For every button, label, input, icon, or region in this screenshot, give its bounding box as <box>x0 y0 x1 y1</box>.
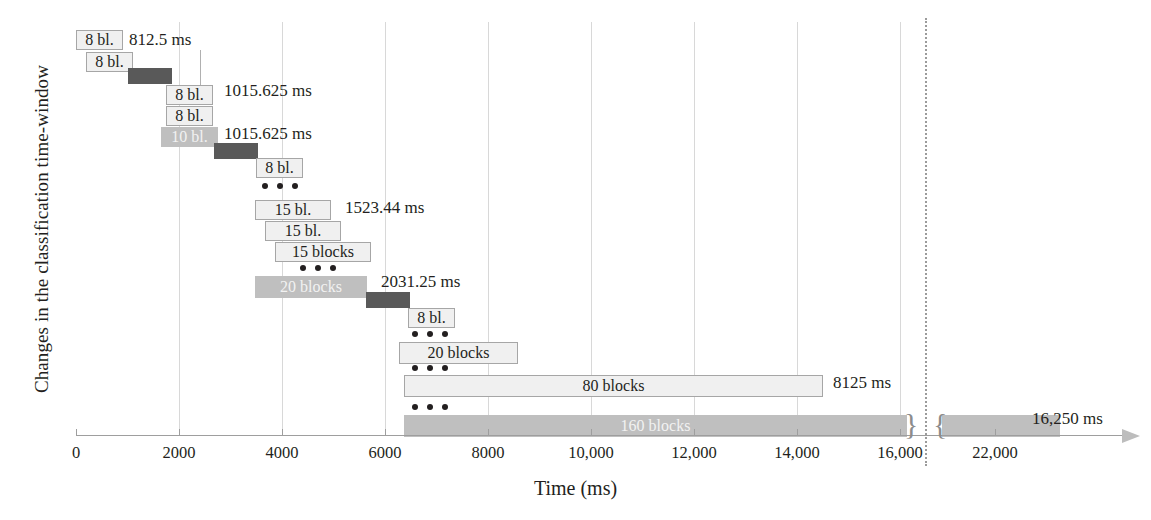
bar-8bl-r16: 8 bl. <box>408 308 455 328</box>
callout-1523-44ms: 1523.44 ms <box>345 198 424 218</box>
gridline-8000 <box>488 22 489 435</box>
axis-break-dotted-line <box>925 18 927 466</box>
bar-15bl-r10: 15 bl. <box>255 200 331 220</box>
bar-160blocks-r22: 160 blocks <box>404 415 907 437</box>
bar-label: 15 bl. <box>275 202 311 218</box>
bar-8bl-r1: 8 bl. <box>76 30 123 50</box>
bar-8bl-r8: 8 bl. <box>256 158 303 178</box>
gridline-2000 <box>179 22 180 435</box>
axis-break-brace-left: } <box>904 409 918 439</box>
tick-2000-label: 2000 <box>163 443 196 463</box>
tick-12000-label: 12,000 <box>671 443 716 463</box>
bar-label: 20 blocks <box>428 345 490 361</box>
bar-8bl-r4: 8 bl. <box>166 85 213 105</box>
bar-label: 15 blocks <box>292 244 354 260</box>
bar-15blocks-r12: 15 blocks <box>275 242 371 262</box>
plot-area: 8 bl.8 bl.8 bl.8 bl.10 bl.8 bl.15 bl.15 … <box>0 0 1151 520</box>
bar-20blocks-r14: 20 blocks <box>255 276 367 298</box>
tick-0 <box>76 429 77 436</box>
gridline-14000 <box>797 22 798 435</box>
gridline-10000 <box>591 22 592 435</box>
bar-label: 10 bl. <box>171 129 207 145</box>
callout-2031-25ms: 2031.25 ms <box>381 272 460 292</box>
tick-14000-label: 14,000 <box>774 443 819 463</box>
bar-20blocks-r18: 20 blocks <box>399 342 518 364</box>
bar-label: 20 blocks <box>280 279 342 295</box>
bar-label: 160 blocks <box>621 418 691 434</box>
ellipsis-5 <box>412 404 448 410</box>
bar-label: 8 bl. <box>175 87 203 103</box>
tick-0-label: 0 <box>72 443 80 463</box>
bar-15bl-r11: 15 bl. <box>265 221 341 241</box>
x-axis-line <box>76 435 1125 436</box>
tick-16000-label: 16,000 <box>877 443 922 463</box>
gridline-12000 <box>694 22 695 435</box>
gridline-16000 <box>900 22 901 435</box>
gridline-6000 <box>385 22 386 435</box>
bar-8bl-r2: 8 bl. <box>86 52 133 72</box>
tick-10000 <box>591 429 592 436</box>
tick-8000 <box>488 429 489 436</box>
callout-8125ms: 8125 ms <box>833 373 891 393</box>
axis-break-brace-right: { <box>933 409 947 439</box>
bar-label: 8 bl. <box>265 160 293 176</box>
ellipsis-2 <box>300 265 336 271</box>
callout-1015-625ms-b: 1015.625 ms <box>224 124 312 144</box>
callout-16250ms: 16,250 ms <box>1032 409 1103 429</box>
tick-10000-label: 10,000 <box>568 443 613 463</box>
x-axis-arrow-icon <box>1122 429 1140 443</box>
bar-dark-r7 <box>214 143 258 159</box>
tick-14000 <box>797 429 798 436</box>
ellipsis-4 <box>412 365 448 371</box>
tick-4000 <box>282 429 283 436</box>
callout-812-5ms-leader-line <box>200 50 201 85</box>
bar-80blocks-r20: 80 blocks <box>404 375 823 397</box>
bar-8bl-r5: 8 bl. <box>166 106 213 126</box>
tick-2000 <box>179 429 180 436</box>
figure-gantt-timewindows: Changes in the classification time-windo… <box>0 0 1151 520</box>
bar-dark-r15 <box>366 292 410 308</box>
callout-1015-625ms-a: 1015.625 ms <box>224 81 312 101</box>
bar-label: 8 bl. <box>85 32 113 48</box>
bar-label: 8 bl. <box>417 310 445 326</box>
tick-16000 <box>900 429 901 436</box>
tick-8000-label: 8000 <box>472 443 505 463</box>
tick-22000 <box>995 429 996 436</box>
bar-label: 80 blocks <box>583 378 645 394</box>
bar-10bl-r6: 10 bl. <box>161 127 218 147</box>
tick-4000-label: 4000 <box>266 443 299 463</box>
tick-6000 <box>385 429 386 436</box>
ellipsis-1 <box>262 183 298 189</box>
bar-label: 8 bl. <box>95 54 123 70</box>
callout-812-5ms: 812.5 ms <box>129 30 191 50</box>
ellipsis-3 <box>412 331 448 337</box>
tick-6000-label: 6000 <box>369 443 402 463</box>
bar-dark-r3 <box>128 68 172 84</box>
bar-label: 15 bl. <box>285 223 321 239</box>
tick-12000 <box>694 429 695 436</box>
bar-label: 8 bl. <box>175 108 203 124</box>
tick-22000-label: 22,000 <box>972 443 1017 463</box>
